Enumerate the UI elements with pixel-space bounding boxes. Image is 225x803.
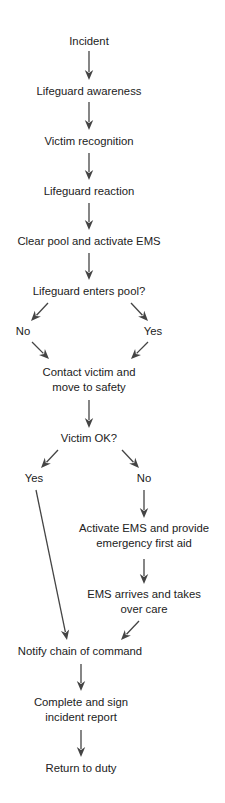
node-text-line: Return to duty (46, 761, 117, 776)
node-text-line: Lifeguard awareness (37, 84, 142, 99)
node-text-line: Victim recognition (45, 134, 134, 149)
flow-arrows (0, 0, 225, 803)
node-text-line: Victim OK? (61, 431, 117, 446)
node-text-line: Contact victim and (43, 365, 136, 380)
node-text-line: Lifeguard enters pool? (33, 284, 145, 299)
node-text-line: Notify chain of command (18, 644, 142, 659)
incident-response-flowchart: IncidentLifeguard awarenessVictim recogn… (0, 0, 225, 803)
flow-node-enters-yes: Yes (144, 324, 162, 339)
arrow-icon (85, 203, 93, 230)
flow-node-recognition: Victim recognition (45, 134, 134, 149)
flow-node-reaction: Lifeguard reaction (44, 184, 134, 199)
node-text-line: No (16, 324, 30, 339)
arrow-icon (85, 102, 93, 130)
arrow-icon (85, 51, 93, 80)
node-text-line: Lifeguard reaction (44, 184, 134, 199)
arrow-icon (85, 400, 93, 428)
node-text-line: move to safety (43, 379, 136, 394)
arrow-icon (131, 303, 148, 321)
flow-node-enters-no: No (16, 324, 30, 339)
node-text-line: Yes (144, 324, 162, 339)
node-text-line: EMS arrives and takes (87, 587, 201, 602)
arrow-icon (85, 153, 93, 180)
arrow-icon (36, 490, 69, 640)
flow-node-victim-ok: Victim OK? (61, 431, 117, 446)
flow-node-report: Complete and signincident report (34, 695, 128, 724)
flow-node-incident: Incident (69, 34, 109, 49)
arrow-icon (77, 664, 85, 691)
node-text-line: Complete and sign (34, 695, 128, 710)
arrow-icon (85, 253, 93, 280)
node-text-line: Activate EMS and provide (79, 521, 209, 536)
arrow-icon (77, 730, 85, 757)
flow-node-notify: Notify chain of command (18, 644, 142, 659)
node-text-line: incident report (34, 709, 128, 724)
arrow-icon (140, 490, 148, 518)
flow-node-clear-pool: Clear pool and activate EMS (17, 234, 160, 249)
node-text-line: Clear pool and activate EMS (17, 234, 160, 249)
node-text-line: Incident (69, 34, 109, 49)
flow-node-activate-ems: Activate EMS and provideemergency first … (79, 521, 209, 550)
node-text-line: No (137, 471, 151, 486)
arrow-icon (121, 621, 139, 640)
flow-node-return: Return to duty (46, 761, 117, 776)
flow-node-ems-arrives: EMS arrives and takesover care (87, 587, 201, 616)
arrow-icon (41, 450, 58, 468)
arrow-icon (140, 559, 148, 584)
flow-node-contact-victim: Contact victim andmove to safety (43, 365, 136, 394)
arrow-icon (122, 450, 139, 468)
arrow-icon (32, 342, 49, 359)
flow-node-ok-no: No (137, 471, 151, 486)
arrow-icon (131, 342, 148, 359)
node-text-line: emergency first aid (79, 535, 209, 550)
node-text-line: Yes (25, 471, 43, 486)
flow-node-ok-yes: Yes (25, 471, 43, 486)
node-text-line: over care (87, 601, 201, 616)
flow-node-awareness: Lifeguard awareness (37, 84, 142, 99)
arrow-icon (31, 303, 48, 321)
flow-node-enters-pool: Lifeguard enters pool? (33, 284, 145, 299)
